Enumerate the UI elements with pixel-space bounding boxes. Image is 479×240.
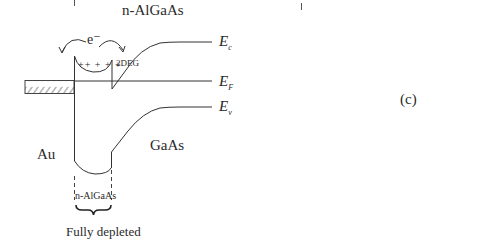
conduction-band-label: Ec [219, 34, 232, 49]
fermi-level-label: EF [219, 74, 233, 89]
valence-band-label: Ev [219, 99, 232, 114]
metal-fermi-block [25, 81, 74, 94]
depletion-brace [76, 205, 111, 215]
band-diagram [0, 0, 479, 240]
panel-label: (c) [400, 92, 417, 107]
electron-label: e⁻ [87, 33, 101, 47]
electron-arrow-right [99, 41, 123, 50]
fully-depleted-label: Fully depleted [66, 225, 141, 238]
metal-label-au: Au [37, 147, 55, 162]
donor-charges-label: ++ + + + [78, 60, 122, 70]
electron-arrow-left [62, 40, 86, 52]
region-title-n-algaas: n-AlGaAs [122, 3, 184, 18]
arrowhead-left [59, 47, 65, 53]
algaas-valence-band [75, 161, 112, 174]
substrate-label-gaas: GaAs [150, 138, 184, 153]
barrier-label-n-algaas: n-AlGaAs [75, 191, 116, 201]
